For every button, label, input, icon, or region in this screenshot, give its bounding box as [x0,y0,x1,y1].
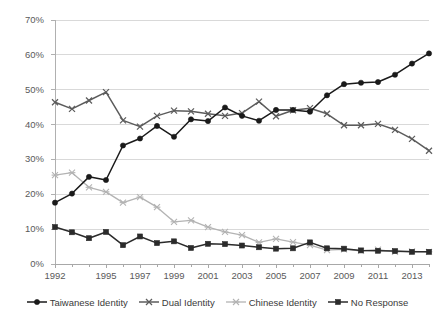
data-point [324,93,329,98]
series-chinese-identity [52,170,433,255]
star-marker-icon [225,296,247,308]
data-point [256,99,262,105]
legend-marker [232,299,239,305]
data-point [325,246,330,251]
data-point [341,82,346,87]
data-point [223,242,228,247]
data-point [427,249,432,254]
data-point [409,136,415,142]
y-tick-label: 0% [12,258,44,269]
data-point [188,217,195,223]
data-point [257,245,262,250]
legend-item-label: No Response [351,297,409,308]
legend-item-label: Dual Identity [162,297,215,308]
data-point [273,236,280,242]
series-dual-identity [52,89,432,154]
data-point [239,232,246,238]
data-point [188,117,193,122]
data-point [69,170,76,176]
data-point [87,236,92,241]
y-tick-label: 40% [12,119,44,130]
data-point [239,113,244,118]
series-line [55,92,429,151]
legend-item[interactable]: Taiwanese Identity [26,296,128,308]
legend-item-label: Chinese Identity [249,297,317,308]
data-point [53,225,58,230]
data-point [120,200,127,206]
data-point [290,239,297,245]
data-point [52,200,57,205]
data-point [376,248,381,253]
data-point [138,234,143,239]
y-tick-label: 50% [12,84,44,95]
data-point [137,194,144,200]
data-point [121,243,126,248]
data-point [273,107,278,112]
data-point [409,61,414,66]
data-point [358,80,363,85]
data-point [86,184,93,190]
data-point [69,106,75,112]
y-tick-label: 10% [12,223,44,234]
data-point [120,143,125,148]
data-point [103,177,108,182]
data-point [189,245,194,250]
data-point [86,98,92,104]
legend-item-label: Taiwanese Identity [50,297,128,308]
data-point [154,123,159,128]
data-point [410,249,415,254]
legend-item[interactable]: Dual Identity [138,296,215,308]
data-point [375,79,380,84]
data-point [86,174,91,179]
data-point [137,136,142,141]
data-point [290,107,295,112]
legend-marker [34,299,39,304]
data-point [256,118,261,123]
data-point [222,229,229,235]
series-line [55,173,429,252]
x-tick-label: 1992 [35,270,75,281]
data-point [393,249,398,254]
data-point [206,241,211,246]
data-point [69,191,74,196]
data-point [291,246,296,251]
data-point [426,148,432,154]
data-point [171,134,176,139]
diamond-marker-icon [26,296,48,308]
identity-trend-line-chart: 0%10%20%30%40%50%60%70% 1992199519971999… [0,0,434,327]
data-point [172,239,177,244]
data-point [222,105,227,110]
data-point [342,246,347,251]
y-tick-label: 70% [12,14,44,25]
data-point [274,246,279,251]
legend-item[interactable]: Chinese Identity [225,296,317,308]
square-marker-icon [327,296,349,308]
data-point [359,248,364,253]
legend-item[interactable]: No Response [327,296,409,308]
data-point [205,118,210,123]
x-marker-icon [138,296,160,308]
y-tick-label: 30% [12,153,44,164]
y-tick-label: 20% [12,188,44,199]
data-point [392,72,397,77]
data-point [155,241,160,246]
x-tick-label: 2013 [392,270,432,281]
series-line [55,53,429,202]
chart-legend: Taiwanese IdentityDual IdentityChinese I… [0,296,434,308]
data-point [70,230,75,235]
data-point [240,243,245,248]
series-taiwanese-identity [52,51,431,205]
y-tick-label: 60% [12,49,44,60]
legend-marker [335,300,340,305]
data-point [104,229,109,234]
data-point [307,109,312,114]
data-point [426,51,431,56]
data-point [154,204,161,210]
data-point [308,240,313,245]
data-point [171,219,178,225]
